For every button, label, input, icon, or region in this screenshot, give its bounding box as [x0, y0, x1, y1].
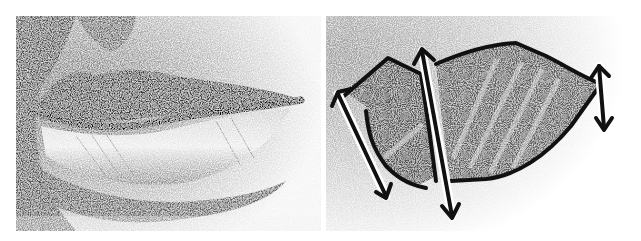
lips-planes-diagram-panel: Simplified lip planes with height arrows: [326, 16, 625, 231]
lips-drawing-panel: Shaded pencil drawing of lips: [16, 16, 321, 231]
lips-sketch-illustration: [16, 16, 321, 231]
lips-planes-diagram: [326, 16, 625, 231]
